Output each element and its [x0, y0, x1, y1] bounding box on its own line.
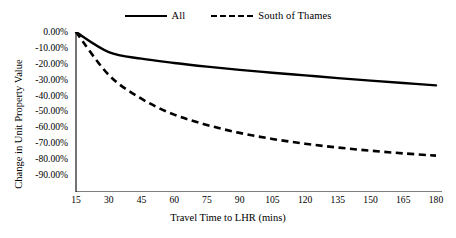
y-tick-label: -30.00% [22, 75, 68, 85]
x-tick-label: 60 [157, 194, 191, 205]
legend-label-south-of-thames: South of Thames [258, 10, 331, 22]
x-tick-label: 75 [190, 194, 224, 205]
y-tick-label: -70.00% [22, 138, 68, 148]
y-tick-label: -20.00% [22, 59, 68, 69]
x-tick-label: 180 [419, 194, 453, 205]
x-tick-label: 135 [321, 194, 355, 205]
x-tick-label: 15 [59, 194, 93, 205]
y-tick-label: 0.00% [22, 27, 68, 37]
solid-line-swatch [125, 15, 167, 17]
y-tick-label: -60.00% [22, 122, 68, 132]
y-tick-label: -50.00% [22, 106, 68, 116]
legend-entry-all[interactable]: All [125, 10, 186, 22]
x-tick-label: 150 [354, 194, 388, 205]
series-line-south-of-thames [76, 32, 436, 156]
legend-label-all: All [172, 10, 186, 22]
x-axis-title: Travel Time to LHR (mins) [0, 212, 456, 224]
x-tick-label: 30 [92, 194, 126, 205]
series-line-all [76, 32, 436, 85]
dashed-line-swatch [211, 15, 253, 17]
y-tick-label: -40.00% [22, 91, 68, 101]
x-axis-tick-labels: 153045607590105120135150165180 [70, 194, 442, 208]
legend-entry-south-of-thames[interactable]: South of Thames [211, 10, 331, 22]
plot-svg [70, 32, 442, 192]
chart-legend: All South of Thames [0, 10, 456, 22]
x-tick-label: 45 [124, 194, 158, 205]
x-tick-label: 165 [386, 194, 420, 205]
y-tick-label: -80.00% [22, 154, 68, 164]
y-tick-label: -90.00% [22, 170, 68, 180]
x-tick-label: 105 [255, 194, 289, 205]
x-tick-label: 90 [223, 194, 257, 205]
y-tick-label: -10.00% [22, 43, 68, 53]
x-tick-label: 120 [288, 194, 322, 205]
line-chart: All South of Thames Change in Unit Prope… [0, 0, 456, 238]
plot-area [70, 32, 442, 192]
